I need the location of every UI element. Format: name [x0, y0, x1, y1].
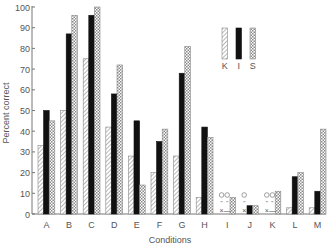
bar-I-S [230, 197, 236, 214]
bar-E-I [134, 121, 140, 214]
x-tick-label: E [134, 220, 140, 230]
bar-H-I [202, 127, 208, 214]
legend-swatch-K [222, 28, 228, 59]
y-tick-label: 60 [20, 85, 30, 95]
y-tick-label: 0 [25, 210, 30, 220]
legend-swatch-I [236, 28, 242, 59]
bar-J-S [253, 206, 259, 214]
bar-D-K [106, 127, 112, 214]
svg-text:": " [226, 200, 228, 206]
svg-text:": " [271, 200, 273, 206]
y-tick-label: 10 [20, 189, 30, 199]
y-tick-label: 20 [20, 168, 30, 178]
y-tick-label: 80 [20, 44, 30, 54]
x-tick-label: G [178, 220, 185, 230]
svg-text:": " [243, 200, 245, 206]
x-tick-label: D [111, 220, 118, 230]
bar-H-S [207, 137, 213, 214]
bar-D-I [111, 94, 117, 214]
bar-F-I [157, 142, 163, 214]
bar-A-I [44, 111, 50, 215]
y-tick-label: 70 [20, 65, 30, 75]
bar-M-S [320, 129, 326, 214]
x-tick-label: I [226, 220, 229, 230]
bar-L-I [292, 177, 298, 214]
y-axis-label: Percent correct [1, 82, 11, 144]
bar-L-K [287, 208, 293, 214]
bar-E-K [128, 156, 134, 214]
bar-J-I [247, 206, 253, 214]
x-tick-label: K [269, 220, 275, 230]
y-tick-label: 40 [20, 127, 30, 137]
y-tick-label: 30 [20, 147, 30, 157]
bar-H-K [196, 197, 202, 214]
bar-F-S [162, 129, 168, 214]
bar-E-S [140, 185, 146, 214]
svg-text:×: × [242, 207, 246, 214]
svg-text:": " [221, 200, 223, 206]
bars: ABCDEFGHIJKLM [38, 7, 326, 230]
x-axis-label: Conditions [149, 235, 192, 245]
bar-B-I [66, 34, 72, 214]
bar-B-K [61, 111, 67, 215]
x-tick-label: F [157, 220, 163, 230]
legend-label: I [237, 61, 240, 71]
x-tick-label: M [314, 220, 322, 230]
bar-A-S [49, 121, 55, 214]
x-tick-label: B [66, 220, 72, 230]
svg-text:": " [266, 200, 268, 206]
bar-F-K [151, 173, 157, 214]
bar-chart: 0102030405060708090100 ABCDEFGHIJKLM "×"… [0, 0, 328, 247]
bar-D-S [117, 65, 123, 214]
legend-swatch-S [250, 28, 256, 59]
bar-B-S [72, 15, 78, 214]
bar-K-S [275, 191, 281, 214]
bar-G-S [185, 46, 191, 214]
x-tick-label: L [292, 220, 297, 230]
svg-text:—: — [224, 207, 231, 214]
bar-C-I [89, 15, 95, 214]
legend-label: S [250, 61, 256, 71]
x-tick-label: A [43, 220, 49, 230]
x-tick-label: H [201, 220, 208, 230]
x-tick-label: C [88, 220, 95, 230]
y-tick-label: 50 [20, 106, 30, 116]
legend-label: K [222, 61, 228, 71]
bar-M-I [315, 191, 321, 214]
svg-text:—: — [269, 207, 276, 214]
bar-M-K [309, 208, 315, 214]
bar-L-S [298, 173, 304, 214]
y-tick-label: 100 [15, 3, 30, 13]
bar-G-I [179, 73, 185, 214]
y-tick-label: 90 [20, 23, 30, 33]
x-tick-label: J [248, 220, 253, 230]
legend: KIS [222, 28, 256, 71]
bar-C-K [83, 59, 89, 214]
bar-A-K [38, 146, 44, 214]
bar-C-S [94, 7, 100, 214]
bar-G-K [174, 156, 180, 214]
